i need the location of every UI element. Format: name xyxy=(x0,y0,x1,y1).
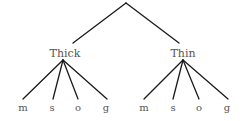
leaf-label-thick-g: g xyxy=(103,103,109,113)
leaf-label-thin-m: m xyxy=(139,103,148,113)
node-label-thick: Thick xyxy=(50,48,81,59)
edge-root-thin xyxy=(126,3,179,43)
leaf-label-thick-m: m xyxy=(18,103,27,113)
leaf-label-thick-s: s xyxy=(49,103,54,113)
leaf-label-thin-o: o xyxy=(196,103,202,113)
edge-thick-m xyxy=(23,60,63,99)
edge-thick-s xyxy=(53,60,63,99)
leaf-label-thin-g: g xyxy=(224,103,230,113)
node-label-thin: Thin xyxy=(170,48,195,59)
edge-root-thick xyxy=(73,3,126,43)
tree-edges xyxy=(0,0,246,121)
leaf-label-thick-o: o xyxy=(75,103,81,113)
edge-thin-m xyxy=(144,60,183,99)
edge-thick-g xyxy=(63,60,107,99)
leaf-label-thin-s: s xyxy=(170,103,175,113)
edge-thin-o xyxy=(183,60,199,99)
edge-thin-g xyxy=(183,60,228,99)
